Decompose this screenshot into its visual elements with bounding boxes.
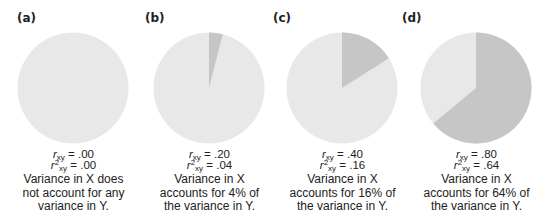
r-squared-value: r2xy = .16 xyxy=(274,160,411,171)
description: Variance in X does not account for any v… xyxy=(5,173,142,214)
pie-chart xyxy=(153,32,265,144)
panel-b: (b) rxy = .20 r2xy = .04 Variance in X a… xyxy=(136,0,273,223)
r-squared-value: r2xy = .00 xyxy=(5,160,142,171)
panel-label: (a) xyxy=(17,11,36,25)
caption: rxy = .40 r2xy = .16 Variance in X accou… xyxy=(274,149,411,214)
panel-label: (d) xyxy=(402,11,422,25)
panel-label: (c) xyxy=(273,11,291,25)
description: Variance in X accounts for 16% of the va… xyxy=(274,173,411,214)
r-squared-value: r2xy = .04 xyxy=(141,160,278,171)
panel-d: (d) rxy = .80 r2xy = .64 Variance in X a… xyxy=(404,0,541,223)
description: Variance in X accounts for 4% of the var… xyxy=(141,173,278,214)
panel-c: (c) rxy = .40 r2xy = .16 Variance in X a… xyxy=(270,0,407,223)
unexplained-slice xyxy=(18,33,129,144)
caption: rxy = .80 r2xy = .64 Variance in X accou… xyxy=(408,149,545,214)
caption: rxy = .00 r2xy = .00 Variance in X does … xyxy=(5,149,142,214)
caption: rxy = .20 r2xy = .04 Variance in X accou… xyxy=(141,149,278,214)
description: Variance in X accounts for 64% of the va… xyxy=(408,173,545,214)
r-squared-value: r2xy = .64 xyxy=(408,160,545,171)
panel-label: (b) xyxy=(145,11,165,25)
pie-chart xyxy=(286,32,398,144)
pie-chart xyxy=(420,32,532,144)
panel-a: (a) rxy = .00 r2xy = .00 Variance in X d… xyxy=(0,0,137,223)
pie-chart xyxy=(17,32,129,144)
